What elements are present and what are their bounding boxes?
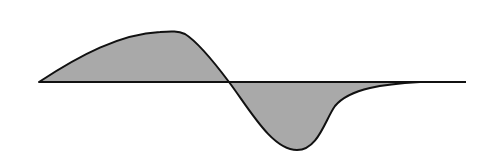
positive-lobe	[39, 31, 229, 82]
waveform-diagram	[0, 0, 487, 153]
negative-lobe	[229, 82, 420, 150]
